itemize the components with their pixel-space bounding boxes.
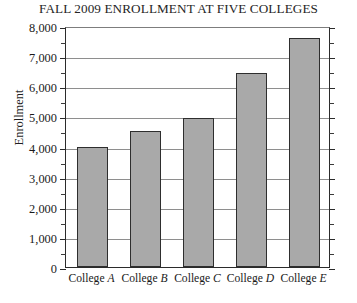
y-axis-minor-tick xyxy=(61,73,66,74)
x-label-letter: D xyxy=(266,272,274,285)
y-axis-tick-right xyxy=(329,269,335,270)
bar xyxy=(289,38,320,267)
x-label-letter: B xyxy=(160,272,167,285)
y-axis-tick-right xyxy=(329,58,335,59)
x-axis-tick-label: College B xyxy=(118,272,171,285)
x-axis-tick-label: College E xyxy=(277,272,330,285)
y-axis-tick xyxy=(60,239,66,240)
y-axis-tick-right xyxy=(329,118,335,119)
y-axis-tick-label: 7,000 xyxy=(29,51,57,66)
y-axis-tick-right xyxy=(329,28,335,29)
y-axis-minor-tick xyxy=(61,103,66,104)
y-axis-tick-label: 1,000 xyxy=(29,231,57,246)
y-axis-minor-tick-right xyxy=(329,133,334,134)
x-label-letter: A xyxy=(107,272,114,285)
chart-title: FALL 2009 ENROLLMENT AT FIVE COLLEGES xyxy=(0,1,357,17)
y-axis-tick-right xyxy=(329,179,335,180)
y-axis-label: Enrollment xyxy=(12,63,27,173)
plot-area: 01,0002,0003,0004,0005,0006,0007,0008,00… xyxy=(65,27,330,268)
y-axis-minor-tick xyxy=(61,164,66,165)
y-axis-tick-right xyxy=(329,239,335,240)
y-axis-tick xyxy=(60,209,66,210)
y-axis-minor-tick xyxy=(61,194,66,195)
y-axis-tick xyxy=(60,179,66,180)
x-label-prefix: College xyxy=(68,272,107,285)
x-axis-tick-label: College A xyxy=(65,272,118,285)
x-label-prefix: College xyxy=(227,272,266,285)
y-axis-tick xyxy=(60,88,66,89)
x-label-letter: E xyxy=(319,272,326,285)
bar xyxy=(130,131,161,267)
y-axis-tick xyxy=(60,149,66,150)
y-axis-minor-tick-right xyxy=(329,224,334,225)
y-axis-minor-tick xyxy=(61,224,66,225)
y-axis-minor-tick xyxy=(61,43,66,44)
y-axis-tick xyxy=(60,58,66,59)
y-axis-tick-label: 6,000 xyxy=(29,81,57,96)
y-axis-tick-label: 3,000 xyxy=(29,171,57,186)
bar xyxy=(236,73,267,267)
enrollment-bar-chart: FALL 2009 ENROLLMENT AT FIVE COLLEGES En… xyxy=(0,0,357,303)
x-axis-tick-label: College D xyxy=(224,272,277,285)
y-axis-tick-label: 5,000 xyxy=(29,111,57,126)
y-axis-tick-right xyxy=(329,209,335,210)
y-axis-tick-right xyxy=(329,149,335,150)
y-axis-minor-tick-right xyxy=(329,194,334,195)
bar xyxy=(183,118,214,267)
y-axis-minor-tick-right xyxy=(329,73,334,74)
y-axis-tick-label: 0 xyxy=(51,262,57,277)
y-axis-tick xyxy=(60,28,66,29)
y-axis-tick xyxy=(60,269,66,270)
y-axis-minor-tick-right xyxy=(329,43,334,44)
y-axis-tick xyxy=(60,118,66,119)
x-label-letter: C xyxy=(213,272,221,285)
bar xyxy=(77,147,108,268)
y-axis-tick-right xyxy=(329,88,335,89)
x-label-prefix: College xyxy=(174,272,213,285)
y-axis-minor-tick-right xyxy=(329,254,334,255)
y-axis-tick-label: 4,000 xyxy=(29,141,57,156)
y-axis-minor-tick-right xyxy=(329,164,334,165)
y-axis-tick-label: 8,000 xyxy=(29,21,57,36)
y-axis-tick-label: 2,000 xyxy=(29,201,57,216)
x-label-prefix: College xyxy=(280,272,319,285)
y-axis-minor-tick xyxy=(61,133,66,134)
x-label-prefix: College xyxy=(121,272,160,285)
y-axis-minor-tick-right xyxy=(329,103,334,104)
x-axis-tick-label: College C xyxy=(171,272,224,285)
y-axis-minor-tick xyxy=(61,254,66,255)
